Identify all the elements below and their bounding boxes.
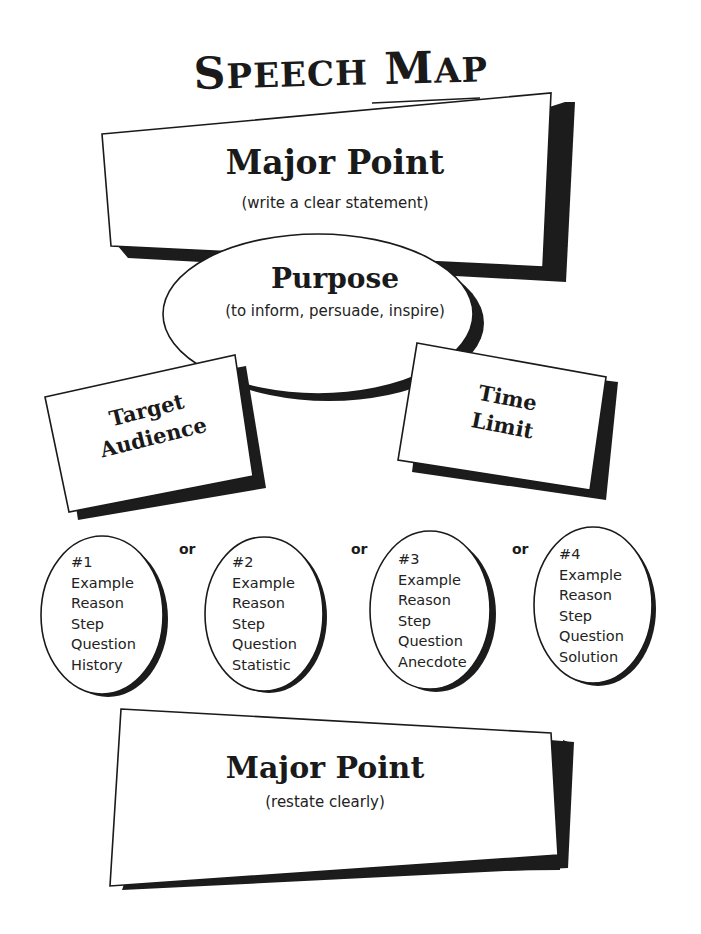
option-item: Question: [398, 631, 467, 652]
major-point-bottom-heading: Major Point: [205, 750, 445, 785]
option-item: Example: [559, 565, 624, 586]
option-item: Step: [559, 606, 624, 627]
speech-map-diagram: SPEECH MAP Major Point (write a clear st…: [0, 0, 701, 934]
option-item: History: [71, 655, 136, 676]
or-connector-1: or: [179, 541, 196, 557]
major-point-top-heading: Major Point: [215, 143, 455, 182]
title-word-speech: PEECH: [226, 52, 369, 96]
or-connector-3: or: [512, 541, 529, 557]
title-word-map: AP: [434, 49, 489, 90]
option-item: Question: [232, 634, 297, 655]
option-item: Example: [232, 573, 297, 594]
major-point-top-instruction: (write a clear statement): [215, 194, 455, 212]
option-number: #4: [559, 544, 624, 565]
option-number: #1: [71, 552, 136, 573]
option-item: Step: [398, 611, 467, 632]
option-item: Question: [71, 634, 136, 655]
option-item: Step: [232, 614, 297, 635]
option-item: Reason: [398, 590, 467, 611]
major-point-bottom-instruction: (restate clearly): [205, 793, 445, 811]
title-initial-s: S: [193, 47, 227, 99]
option-item: Reason: [559, 585, 624, 606]
purpose-heading: Purpose: [215, 262, 455, 295]
option-item: Reason: [71, 593, 136, 614]
option-list-1: #1 Example Reason Step Question History: [71, 552, 136, 675]
option-item: Question: [559, 626, 624, 647]
option-number: #2: [232, 552, 297, 573]
option-item: Step: [71, 614, 136, 635]
option-item: Anecdote: [398, 652, 467, 673]
option-number: #3: [398, 549, 467, 570]
or-connector-2: or: [351, 541, 368, 557]
purpose-instruction: (to inform, persuade, inspire): [195, 302, 475, 320]
option-list-4: #4 Example Reason Step Question Solution: [559, 544, 624, 667]
option-item: Reason: [232, 593, 297, 614]
option-item: Example: [398, 570, 467, 591]
option-item: Solution: [559, 647, 624, 668]
option-item: Statistic: [232, 655, 297, 676]
option-item: Example: [71, 573, 136, 594]
title-initial-m: M: [384, 42, 435, 94]
option-list-2: #2 Example Reason Step Question Statisti…: [232, 552, 297, 675]
page-title: SPEECH MAP: [193, 40, 489, 99]
option-list-3: #3 Example Reason Step Question Anecdote: [398, 549, 467, 672]
